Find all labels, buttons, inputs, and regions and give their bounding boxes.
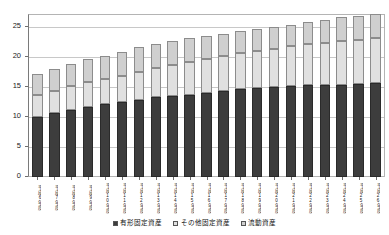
x-axis-tick (139, 177, 140, 180)
x-axis-tick-label: 平成10年度 (101, 181, 109, 214)
bar-column (303, 22, 313, 177)
bar-column (184, 38, 194, 177)
bar-segment (370, 83, 380, 177)
bar-segment (303, 44, 313, 85)
y-axis-tick-label: 10 (13, 112, 21, 120)
bar-segment (117, 52, 127, 76)
y-axis-tick (25, 56, 28, 57)
x-axis-tick (325, 177, 326, 180)
bar-column (100, 56, 110, 177)
bar-segment (32, 74, 42, 94)
bar-segment (336, 85, 346, 177)
bar-column (49, 69, 59, 177)
legend-swatch (173, 221, 178, 226)
bar-segment (252, 51, 262, 88)
bar-segment (32, 95, 42, 117)
y-axis-tick (25, 86, 28, 87)
x-axis-tick-label: 平成14年度 (169, 181, 177, 214)
bar-segment (235, 89, 245, 177)
bar-segment (134, 100, 144, 177)
x-axis-tick (37, 177, 38, 180)
bar-column (117, 52, 127, 177)
bar-segment (66, 86, 76, 109)
x-axis-tick (274, 177, 275, 180)
bar-segment (286, 46, 296, 86)
x-axis-tick-label: 平成9年度 (84, 181, 92, 214)
bar-segment (100, 104, 110, 177)
bar-segment (235, 31, 245, 53)
y-axis-tick-label: 5 (17, 142, 21, 150)
x-axis-labels: 平成6年度平成7年度平成8年度平成9年度平成10年度平成11年度平成12年度平成… (29, 181, 384, 215)
x-axis-tick-label: 平成24年度 (338, 181, 346, 214)
x-axis-tick (105, 177, 106, 180)
bar-segment (49, 113, 59, 177)
bar-column (370, 14, 380, 177)
bar-column (336, 17, 346, 177)
bar-segment (218, 56, 228, 91)
x-axis-tick (122, 177, 123, 180)
legend-label: その他固定資産 (181, 220, 230, 227)
y-axis-tick (25, 26, 28, 27)
x-axis-tick-label: 平成17年度 (219, 181, 227, 214)
x-axis-tick-label: 平成21年度 (287, 181, 295, 214)
bar-column (235, 31, 245, 177)
bar-segment (336, 41, 346, 85)
bar-column (252, 29, 262, 177)
bar-segment (320, 20, 330, 43)
bar-segment (184, 95, 194, 177)
bar-segment (252, 29, 262, 51)
x-axis-tick-label: 平成19年度 (253, 181, 261, 214)
bar-column (269, 27, 279, 177)
bar-segment (353, 84, 363, 177)
bar-segment (303, 85, 313, 177)
bar-segment (201, 59, 211, 93)
y-axis-tick-label: 0 (17, 172, 21, 180)
bar-column (151, 44, 161, 177)
x-axis-tick (291, 177, 292, 180)
bar-column (66, 64, 76, 177)
x-axis-tick (88, 177, 89, 180)
x-axis-tick (342, 177, 343, 180)
legend-label: 流動資産 (248, 220, 276, 227)
bar-segment (167, 41, 177, 66)
bar-segment (201, 36, 211, 59)
chart-legend: 有形固定資産その他固定資産流動資産 (0, 220, 389, 227)
bar-column (320, 20, 330, 177)
bar-segment (201, 93, 211, 177)
bar-segment (83, 82, 93, 107)
bar-column (201, 36, 211, 177)
bar-column (83, 59, 93, 177)
bar-segment (269, 49, 279, 87)
x-axis-tick (54, 177, 55, 180)
y-axis-tick (25, 146, 28, 147)
y-axis-tick-label: 20 (13, 52, 21, 60)
x-axis-tick (173, 177, 174, 180)
x-axis-tick-label: 平成23年度 (321, 181, 329, 214)
bar-segment (167, 65, 177, 96)
x-axis-tick (207, 177, 208, 180)
x-axis-tick-label: 平成8年度 (67, 181, 75, 214)
bar-segment (184, 62, 194, 94)
bar-segment (151, 68, 161, 97)
x-axis-tick (240, 177, 241, 180)
bar-segment (370, 14, 380, 38)
y-axis-tick (25, 116, 28, 117)
x-axis-tick-label: 平成25年度 (355, 181, 363, 214)
bar-column (353, 16, 363, 177)
bar-segment (32, 117, 42, 177)
legend-item: その他固定資産 (173, 220, 230, 227)
bar-segment (83, 107, 93, 177)
bar-segment (134, 72, 144, 100)
bar-segment (286, 86, 296, 177)
x-axis-tick-label: 平成26年度 (372, 181, 380, 214)
x-axis-tick-label: 平成15年度 (186, 181, 194, 214)
bar-column (286, 25, 296, 177)
y-axis-tick-label: 15 (13, 82, 21, 90)
legend-item: 流動資産 (241, 220, 277, 227)
bar-segment (269, 27, 279, 49)
legend-item: 有形固定資産 (113, 220, 163, 227)
bar-column (134, 47, 144, 177)
bar-column (32, 74, 42, 177)
bar-segment (320, 43, 330, 86)
bar-segment (66, 110, 76, 177)
